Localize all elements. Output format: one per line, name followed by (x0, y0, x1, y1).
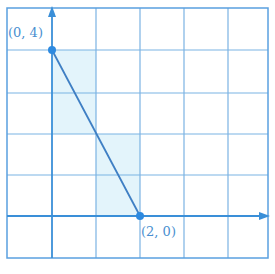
point-label-0-4: (0, 4) (8, 25, 43, 40)
grid-lines (7, 8, 268, 258)
point-2-0 (136, 212, 144, 220)
grid-border (7, 8, 268, 258)
coordinate-diagram: (0, 4) (2, 0) (0, 0, 275, 274)
point-label-2-0: (2, 0) (141, 224, 176, 239)
point-0-4 (48, 46, 56, 54)
